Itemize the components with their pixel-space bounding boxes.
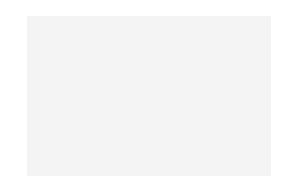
- knitting-chart-grid: [27, 16, 271, 176]
